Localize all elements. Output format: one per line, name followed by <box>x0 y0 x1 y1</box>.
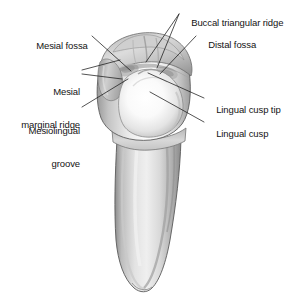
lingual-cusp-shape <box>119 69 184 137</box>
label-buccal-triangular-ridge-line-1: Buccal triangular ridge <box>191 17 283 28</box>
label-distal-fossa-line-1: Distal fossa <box>208 39 256 50</box>
label-mesiolingual-groove-line-1: Mesiolingual <box>0 125 80 136</box>
figure-container: Buccal triangular ridge Distal fossa Mes… <box>0 0 298 300</box>
label-lingual-cusp-tip-line-1: Lingual cusp tip <box>216 104 280 115</box>
label-mesial-fossa-line-1: Mesial fossa <box>36 40 88 51</box>
tooth-root <box>115 139 181 292</box>
label-mesial-fossa: Mesial fossa <box>26 29 88 62</box>
label-distal-fossa: Distal fossa <box>198 28 256 61</box>
label-lingual-cusp: Lingual cusp <box>206 117 268 150</box>
label-mesial-marginal-ridge-line-1: Mesial <box>0 86 80 97</box>
label-mesiolingual-groove: Mesiolingual groove <box>0 103 80 191</box>
label-mesiolingual-groove-line-2: groove <box>0 158 80 169</box>
label-lingual-cusp-line-1: Lingual cusp <box>216 128 268 139</box>
